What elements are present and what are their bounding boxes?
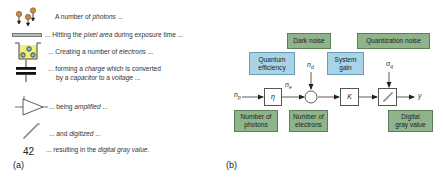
dark-noise-box: Dark noise [287,33,331,49]
gray-value-number: 42 [23,146,34,157]
eta-block: η [264,88,282,106]
step-text-electrons: ... Creating a number of electrons ... [48,48,153,55]
pixel-area-icon [12,33,42,37]
step-text-amplified: ... being amplified ... [49,103,108,110]
step-text-photons: A number of photons ... [55,13,123,20]
digitizer-icon [22,123,44,139]
amplifier-icon [12,96,50,118]
number-of-electrons-box: Number of electrons [289,110,328,132]
capacitor-icon [13,60,39,82]
photons-icon [12,4,40,26]
step-text-pixel-area: ... Hitting the pixel area during exposu… [45,31,183,38]
step-text-charge: ... forming a charge which is converted [48,65,161,72]
n-p-symbol: np [234,91,241,100]
number-of-photons-box: Number of photons [234,110,278,132]
quantization-noise-box: Quantization noise [357,33,430,49]
step-text-gray-value: ... resulting in the digital gray value. [46,146,149,153]
y-symbol: y [418,92,422,99]
step-text-capacitor: by a capacitor to a voltage ... [56,74,140,81]
n-d-symbol: nd [307,61,314,70]
step-text-digitized: ... and digitized ... [49,130,101,137]
adc-block [378,88,397,106]
panel-b-label: (b) [226,160,237,170]
summing-junction [305,91,317,103]
electron-well-icon [14,42,44,60]
panel-a-label: (a) [13,160,24,170]
quantizer-icon [382,92,394,102]
signal-flow-lines [230,60,443,110]
n-e-symbol: ne [285,81,292,90]
sigma-q-symbol: σq [386,60,393,69]
digital-gray-value-box: Digital gray value [388,110,433,132]
gain-k-block: K [340,88,359,106]
